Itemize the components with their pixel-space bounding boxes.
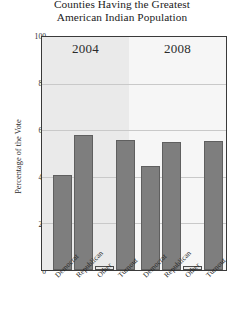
y-tick-0: 0 [6, 267, 46, 276]
y-tick-80: 80 [6, 79, 46, 88]
y-axis-label: Percentage of the Vote [14, 92, 23, 222]
gridline-80 [42, 84, 226, 85]
y-tick-60: 60 [6, 126, 46, 135]
y-tick-100: 100 [6, 32, 46, 41]
chart-title-line-2: American Indian Population [0, 11, 244, 24]
y-tick-20: 20 [6, 220, 46, 229]
chart-container: Counties Having the Greatest American In… [0, 0, 244, 322]
chart-title-line-1: Counties Having the Greatest [0, 0, 244, 11]
gridline-60 [42, 130, 226, 131]
chart-title: Counties Having the Greatest American In… [0, 0, 244, 25]
group-label-2008: 2008 [129, 41, 226, 57]
group-label-2004: 2004 [42, 41, 129, 57]
y-tick-40: 40 [6, 173, 46, 182]
